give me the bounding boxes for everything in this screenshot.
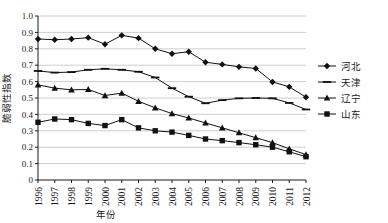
x-axis-title: 年份 [96,209,116,220]
series-山东 [35,116,308,159]
data-point [252,97,260,99]
vulnerability-index-line-chart: 00.10.20.30.40.50.60.70.80.91.0199619971… [0,0,388,223]
data-point [136,125,141,130]
data-point [52,37,58,43]
data-point [201,102,209,104]
data-point [185,96,193,98]
y-axis-tick-label: 0.9 [22,28,34,38]
data-point [151,77,159,79]
data-point [52,116,57,121]
y-axis-tick-label: 0.5 [22,93,34,103]
y-axis-title: 脆弱性指数 [1,73,12,123]
x-axis-tick-label: 2004 [168,187,178,206]
series-天津 [34,68,310,110]
legend-marker-square-icon [324,111,329,116]
legend-label: 辽宁 [341,93,361,104]
data-point [169,129,174,134]
x-axis-tick-label: 2003 [151,187,161,206]
data-point [236,140,241,145]
data-point [34,70,42,72]
data-point [135,98,142,104]
legend-label: 山东 [341,109,361,120]
data-point [203,136,208,141]
data-point [35,81,42,87]
x-axis-tick-label: 2007 [218,187,228,206]
data-point [118,90,125,96]
y-axis-tick-label: 1.0 [22,11,34,21]
x-axis-tick-label: 2000 [101,187,111,206]
legend-marker-diamond-icon [324,63,330,69]
legend-item-天津[interactable]: 天津 [318,77,361,88]
y-axis-tick-label: 0.7 [22,60,34,70]
data-point [270,145,275,150]
y-axis-tick-label: 0.2 [22,142,33,152]
data-point [118,69,126,71]
data-point [253,142,258,147]
data-point [220,138,225,143]
x-axis-tick-label: 2002 [134,187,144,206]
data-point [134,71,142,73]
data-point [101,68,109,70]
data-point [67,71,75,73]
data-point [303,154,308,159]
data-point [303,94,309,100]
y-axis-tick-label: 0 [29,175,34,185]
data-point [286,84,292,90]
data-point [285,102,293,104]
legend-marker-dash-icon [323,81,331,83]
data-point [218,99,226,101]
data-point [168,87,176,89]
y-axis-tick-label: 0.1 [22,159,33,169]
data-point [86,121,91,126]
legend-item-辽宁[interactable]: 辽宁 [318,93,361,104]
data-point [135,35,141,41]
legend-item-山东[interactable]: 山东 [318,109,361,120]
data-point [302,109,310,111]
legend-label: 河北 [341,61,361,72]
data-point [85,34,91,40]
x-axis-tick-label: 2012 [302,187,312,206]
x-axis-tick-label: 1999 [84,187,94,206]
x-axis-tick-label: 1996 [34,187,44,206]
series-line [38,119,306,157]
data-point [119,32,125,38]
chart-canvas: 00.10.20.30.40.50.60.70.80.91.0199619971… [0,0,388,223]
series-line [38,85,306,155]
x-axis-tick-label: 2010 [268,187,278,206]
x-axis-tick-label: 1997 [50,187,60,206]
data-point [102,41,108,47]
x-axis-tick-label: 2001 [117,187,127,206]
data-point [35,36,41,42]
x-axis-tick-label: 2005 [184,187,194,206]
data-point [152,46,158,52]
legend-item-河北[interactable]: 河北 [318,61,361,72]
series-line [38,69,306,110]
data-point [169,51,175,57]
data-point [186,133,191,138]
data-point [51,72,59,74]
series-辽宁 [35,81,310,157]
data-point [119,117,124,122]
data-point [186,49,192,55]
data-point [153,128,158,133]
data-point [287,149,292,154]
data-point [236,64,242,70]
y-axis-tick-label: 0.3 [22,126,34,136]
data-point [235,97,243,99]
data-point [102,123,107,128]
data-point [35,120,40,125]
data-point [69,117,74,122]
x-axis-tick-label: 2008 [235,187,245,206]
y-axis-tick-label: 0.8 [22,44,34,54]
data-point [68,36,74,42]
legend-label: 天津 [341,77,361,88]
data-point [84,69,92,71]
data-point [202,59,208,65]
x-axis-tick-label: 1998 [67,187,77,206]
x-axis-tick-label: 2006 [201,187,211,206]
x-axis-tick-label: 2009 [251,187,261,206]
data-point [268,97,276,99]
data-point [219,61,225,67]
y-axis-tick-label: 0.4 [22,110,34,120]
y-axis-tick-label: 0.6 [22,77,34,87]
